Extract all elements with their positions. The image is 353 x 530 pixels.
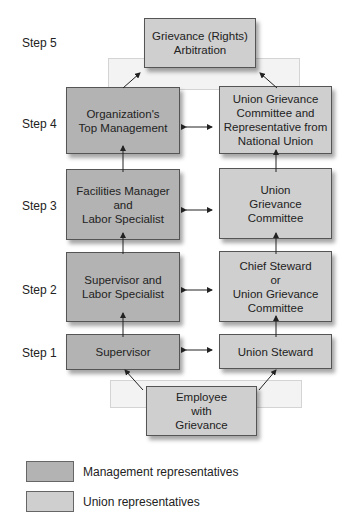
legend-swatch-union — [26, 491, 74, 512]
legend-label-union: Union representatives — [83, 495, 200, 509]
legend-label-management: Management representatives — [83, 465, 238, 479]
connector-arrows — [0, 0, 353, 530]
legend-swatch-management — [26, 461, 74, 482]
